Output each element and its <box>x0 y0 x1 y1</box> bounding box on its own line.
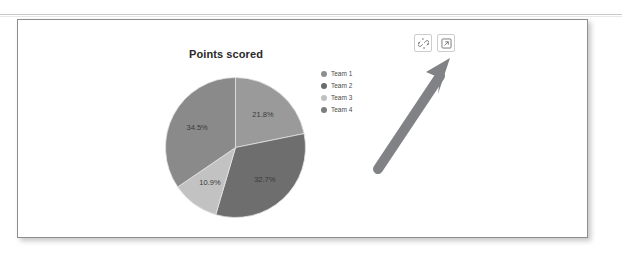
chart-title: Points scored <box>166 48 286 60</box>
top-divider <box>0 14 622 15</box>
legend-item[interactable]: Team 3 <box>321 92 391 103</box>
legend-label: Team 4 <box>331 106 352 113</box>
pie-slice-label: 21.8% <box>252 110 274 119</box>
legend-item[interactable]: Team 2 <box>321 80 391 91</box>
top-divider-shadow <box>0 16 622 17</box>
pie-slice-label: 34.5% <box>186 123 208 132</box>
legend-color-swatch <box>321 95 327 101</box>
legend-color-swatch <box>321 71 327 77</box>
chart-panel: Points scored 21.8%32.7%10.9%34.5% Team … <box>17 19 588 238</box>
legend-label: Team 1 <box>331 70 352 77</box>
unlink-button[interactable] <box>414 34 432 52</box>
open-in-new-window-button[interactable] <box>437 34 455 52</box>
pie-slice-label: 32.7% <box>254 175 276 184</box>
pie-chart: 21.8%32.7%10.9%34.5% <box>163 75 308 220</box>
pie-slice-label: 10.9% <box>199 178 221 187</box>
pie-chart-figure: Points scored 21.8%32.7%10.9%34.5% Team … <box>18 20 589 239</box>
chart-toolbar <box>414 34 455 52</box>
legend-label: Team 3 <box>331 94 352 101</box>
chart-legend: Team 1Team 2Team 3Team 4 <box>321 68 391 116</box>
legend-label: Team 2 <box>331 82 352 89</box>
pie-slice-group <box>166 78 306 218</box>
legend-item[interactable]: Team 4 <box>321 104 391 115</box>
external-link-icon <box>441 38 452 49</box>
legend-color-swatch <box>321 83 327 89</box>
unlink-icon <box>418 38 429 49</box>
legend-item[interactable]: Team 1 <box>321 68 391 79</box>
pie-chart-svg: 21.8%32.7%10.9%34.5% <box>163 75 308 220</box>
legend-color-swatch <box>321 107 327 113</box>
